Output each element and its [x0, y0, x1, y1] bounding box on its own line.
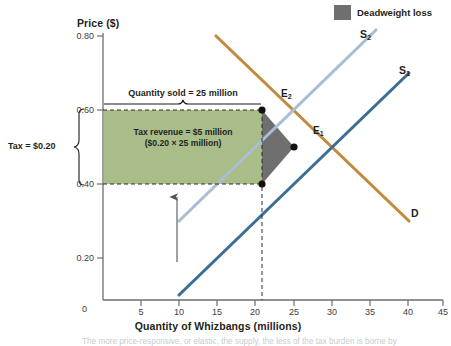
- x-tick-label-30: 30: [327, 308, 337, 317]
- y-tick-label-060: 0.60: [76, 106, 94, 115]
- curve-label-s2: S2: [360, 29, 371, 40]
- x-tick-label-40: 40: [403, 308, 413, 317]
- curve-label-s1-text: S: [399, 64, 406, 76]
- tax-brace: [74, 109, 84, 185]
- deadweight-loss-region: [262, 110, 294, 184]
- legend-swatch-deadweight-loss: [334, 5, 351, 20]
- y-axis-title: Price ($): [77, 18, 119, 29]
- point-label-e1-text: E: [313, 125, 320, 136]
- x-tick-label-10: 10: [174, 308, 184, 317]
- y-tick-label-040: 0.40: [76, 180, 94, 189]
- point-label-e2-subscript: 2: [288, 93, 292, 100]
- curve-label-s2-text: S: [360, 28, 367, 40]
- point-label-e1: E1: [313, 126, 324, 136]
- annotation-tax-revenue-line2: ($0.20 × 25 million): [134, 138, 233, 149]
- x-tick-label-15: 15: [212, 308, 222, 317]
- annotation-tax-revenue-line1: Tax revenue = $5 million: [134, 127, 233, 138]
- point-label-e2: E2: [281, 89, 292, 99]
- x-axis-ticks: [141, 300, 443, 306]
- x-tick-label-25: 25: [289, 308, 299, 317]
- x-axis-title: Quantity of Whizbangs (millions): [135, 321, 302, 332]
- x-tick-label-35: 35: [365, 308, 375, 317]
- quantity-sold-brace: [104, 100, 261, 104]
- curve-label-s1: S1: [399, 65, 410, 76]
- curve-label-d: D: [411, 208, 419, 219]
- x-tick-label-20: 20: [250, 308, 260, 317]
- x-tick-label-45: 45: [438, 308, 448, 317]
- y-tick-label-020: 0.20: [76, 254, 94, 263]
- x-tick-label-5: 5: [138, 308, 143, 317]
- y-axis-origin-label: 0: [82, 305, 87, 314]
- point-label-e2-text: E: [281, 88, 288, 99]
- legend-label-deadweight-loss: Deadweight loss: [357, 8, 432, 18]
- annotation-tax-revenue: Tax revenue = $5 million ($0.20 × 25 mil…: [134, 127, 233, 150]
- y-axis-ticks: [97, 36, 103, 258]
- point-e1-dot: [290, 143, 297, 150]
- y-tick-label-080: 0.80: [76, 32, 94, 41]
- point-e2-dot: [258, 106, 265, 113]
- annotation-quantity-sold: Quantity sold = 25 million: [128, 89, 237, 98]
- annotation-tax-amount: Tax = $0.20: [8, 142, 56, 151]
- point-label-e1-subscript: 1: [320, 130, 324, 137]
- curve-label-s1-subscript: 1: [406, 69, 410, 78]
- curve-label-s2-subscript: 2: [367, 33, 371, 42]
- point-q25-p40-dot: [258, 180, 265, 187]
- figure-caption: The more price-responsive, or elastic, t…: [82, 337, 397, 346]
